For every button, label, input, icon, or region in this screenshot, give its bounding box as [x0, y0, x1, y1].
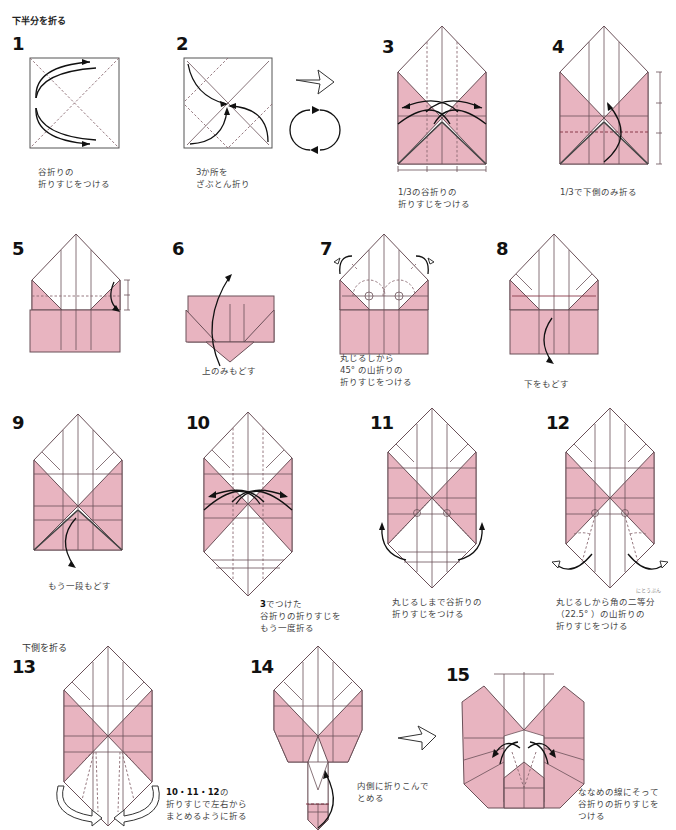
step-3-caption: 1/3の谷折りの 折りすじをつける — [398, 186, 470, 210]
step-9-diagram — [34, 414, 124, 554]
step-2-diagram — [184, 58, 274, 150]
step-number-3: 3 — [382, 36, 394, 57]
step-10-caption-text: でつけた 谷折りの折りすじを もう一度折る — [260, 599, 341, 633]
step-10-caption: 3でつけた 谷折りの折りすじを もう一度折る — [260, 598, 341, 634]
step-number-9: 9 — [12, 412, 24, 433]
step-number-8: 8 — [496, 238, 508, 259]
step-number-6: 6 — [172, 238, 184, 259]
step-6-caption: 上のみもどす — [202, 365, 256, 377]
step-4-diagram — [560, 26, 672, 166]
step-15-caption: ななめの線にそって 谷折りの折りすじを つける — [578, 786, 659, 822]
step-12-caption: 丸じるしから角の二等分 （22.5° ）の山折りの 折りすじをつける — [556, 596, 655, 632]
step-number-2: 2 — [176, 33, 188, 54]
step-11-caption: 丸じるしまで谷折りの 折りすじをつける — [392, 596, 482, 620]
step-12-ruby: にとうぶん — [636, 586, 661, 593]
step-number-13: 13 — [12, 656, 35, 677]
step-13-diagram — [56, 640, 172, 830]
step-number-5: 5 — [12, 238, 24, 259]
step-3-diagram — [398, 26, 488, 171]
step-1-diagram — [30, 58, 120, 150]
rotate-icon — [292, 104, 338, 156]
hollow-arrow-icon — [396, 724, 440, 752]
step-7-caption: 丸じるしから 45° の山折りの 折りすじをつける — [340, 352, 412, 388]
step-15-diagram — [460, 672, 590, 822]
step-14-caption: 内側に折りこんで とめる — [357, 780, 429, 804]
step-6-diagram — [186, 262, 276, 362]
step-5-diagram — [32, 234, 142, 324]
step-8-caption: 下をもどす — [524, 378, 569, 390]
step-number-1: 1 — [12, 33, 24, 54]
step-14-diagram — [270, 640, 366, 830]
step-9-caption: もう一段もどす — [48, 580, 111, 592]
step-10-diagram — [202, 412, 294, 598]
step-4-caption: 1/3で下側のみ折る — [560, 186, 637, 198]
step-2-caption: 3か所を ざぶとん折り — [196, 166, 250, 190]
step-1-caption: 谷折りの 折りすじをつける — [38, 166, 110, 190]
step-13-caption-ref: 10・11・12 — [166, 787, 220, 797]
step-12-diagram — [552, 402, 676, 598]
step-11-diagram — [380, 402, 490, 598]
step-13-caption: 10・11・12の 折りすじで左右から まとめるように折る — [166, 786, 247, 822]
section-title-lower-half: 下半分を折る — [12, 14, 66, 27]
hollow-arrow-icon — [294, 68, 338, 96]
step-7-diagram — [328, 234, 428, 324]
step-8-diagram — [510, 234, 610, 364]
